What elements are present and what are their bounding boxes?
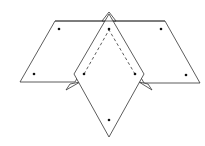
net-diagram — [0, 0, 205, 146]
left-tab — [66, 82, 80, 90]
